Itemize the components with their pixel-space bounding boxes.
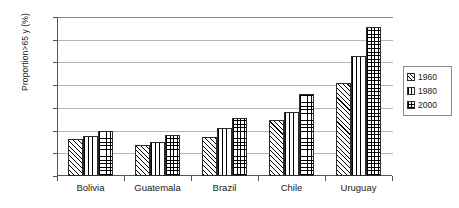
x-axis-label-uruguay: Uruguay [325,182,392,193]
bar-bolivia-2000 [98,131,113,176]
legend-item-2000[interactable]: 2000 [407,98,448,112]
chart-legend: 196019802000 [403,66,452,116]
legend-label-1960: 1960 [418,73,437,82]
bar-guatemala-2000 [165,135,180,176]
legend-swatch-1980 [407,87,415,95]
bar-uruguay-2000 [366,27,381,176]
legend-swatch-1960 [407,73,415,81]
bar-brazil-2000 [232,118,247,176]
bar-group-brazil [191,17,258,176]
bar-group-chile [258,17,325,176]
x-axis-label-guatemala: Guatemala [124,182,191,193]
bar-group-uruguay [325,17,392,176]
bar-guatemala-1960 [135,145,150,176]
x-axis-tick-mark [124,176,125,181]
legend-item-1960[interactable]: 1960 [407,70,448,84]
bar-brazil-1980 [217,128,232,176]
x-axis-tick-mark [258,176,259,181]
x-axis-label-chile: Chile [258,182,325,193]
bar-group-bolivia [57,17,124,176]
bar-bolivia-1980 [83,136,98,176]
bar-uruguay-1960 [336,83,351,176]
x-axis-ticks [57,176,392,181]
bar-chile-1980 [284,112,299,176]
bar-groups [57,17,392,176]
x-axis-tick-mark [325,176,326,181]
x-axis-tick-mark [191,176,192,181]
bar-chile-1960 [269,120,284,176]
bar-group-guatemala [124,17,191,176]
bar-brazil-1960 [202,137,217,176]
bar-bolivia-1960 [68,139,83,176]
x-axis-category-labels: BoliviaGuatemalaBrazilChileUruguay [57,182,392,193]
chart-container: Proportion>65 y (%) 02468101214 BoliviaG… [0,0,459,208]
x-axis-tick-mark [57,176,58,181]
y-axis-title: Proportion>65 y (%) [20,0,30,122]
legend-swatch-2000 [407,101,415,109]
x-axis-label-brazil: Brazil [191,182,258,193]
x-axis-tick-mark [392,176,393,181]
legend-label-1980: 1980 [418,87,437,96]
x-axis-label-bolivia: Bolivia [57,182,124,193]
legend-item-1980[interactable]: 1980 [407,84,448,98]
bar-guatemala-1980 [150,142,165,176]
legend-label-2000: 2000 [418,101,437,110]
bar-chile-2000 [299,94,314,176]
bar-uruguay-1980 [351,56,366,176]
